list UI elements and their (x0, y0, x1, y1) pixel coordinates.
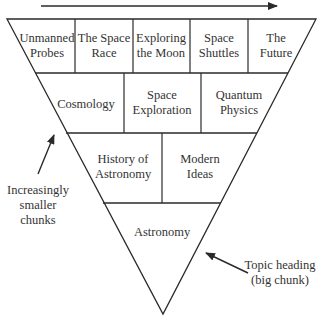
cell-quantum-physics: Quantum Physics (216, 88, 263, 118)
cell-cosmology: Cosmology (57, 97, 115, 112)
cell-history-of-astronomy: History of Astronomy (95, 152, 151, 182)
cell-line: Modern (180, 152, 220, 167)
cell-line: Space (199, 31, 239, 46)
cell-line: Ideas (180, 167, 220, 182)
cell-line: Astronomy (95, 167, 151, 182)
annotation-line: chunks (7, 213, 69, 228)
cell-astronomy: Astronomy (134, 225, 190, 240)
cell-the-space-race: The Space Race (78, 31, 130, 61)
cell-line: Space (132, 88, 191, 103)
right-annotation-arrow (206, 253, 248, 273)
annotation-increasingly-smaller-chunks: Increasingly smaller chunks (7, 183, 69, 228)
left-annotation-arrow (38, 135, 54, 174)
cell-line: Astronomy (134, 225, 190, 240)
cell-line: Shuttles (199, 46, 239, 61)
cell-line: Physics (216, 103, 263, 118)
cell-line: The Space (78, 31, 130, 46)
cell-line: Exploring (136, 31, 186, 46)
cell-line: Exploration (132, 103, 191, 118)
annotation-line: Topic heading (245, 258, 316, 273)
cell-line: Quantum (216, 88, 263, 103)
annotation-line: Increasingly (7, 183, 69, 198)
annotation-line: smaller (7, 198, 69, 213)
cell-modern-ideas: Modern Ideas (180, 152, 220, 182)
cell-exploring-the-moon: Exploring the Moon (136, 31, 186, 61)
cell-line: Future (260, 46, 293, 61)
cell-line: The (260, 31, 293, 46)
cell-line: Race (78, 46, 130, 61)
cell-line: the Moon (136, 46, 186, 61)
cell-space-exploration: Space Exploration (132, 88, 191, 118)
annotation-line: (big chunk) (245, 273, 316, 288)
cell-line: Cosmology (57, 97, 115, 112)
cell-the-future: The Future (260, 31, 293, 61)
cell-unmanned-probes: Unmanned Probes (20, 31, 75, 61)
cell-line: History of (95, 152, 151, 167)
annotation-topic-heading: Topic heading (big chunk) (245, 258, 316, 288)
cell-line: Probes (20, 46, 75, 61)
cell-line: Unmanned (20, 31, 75, 46)
cell-space-shuttles: Space Shuttles (199, 31, 239, 61)
